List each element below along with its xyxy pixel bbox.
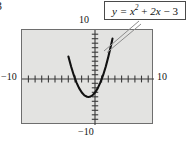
equation-mid: 2x bbox=[150, 5, 160, 17]
equation-plus: + bbox=[139, 5, 151, 17]
equation-callout-box: y = x2 + 2x − 3 bbox=[104, 1, 186, 20]
y-axis-max-label: 10 bbox=[79, 14, 89, 25]
equation-minus: − bbox=[161, 5, 173, 17]
figure-number: 3 bbox=[0, 0, 2, 13]
equation-constant: 3 bbox=[172, 5, 178, 17]
parabola-curve bbox=[68, 39, 112, 97]
equation-label: y = x2 + 2x − 3 bbox=[112, 5, 178, 17]
equation-prefix: y = x bbox=[112, 5, 135, 17]
y-axis-min-label: −10 bbox=[78, 126, 94, 137]
graph-viewing-window bbox=[21, 29, 153, 124]
x-axis-max-label: 10 bbox=[157, 71, 167, 82]
figure-container: 3 bbox=[0, 0, 188, 141]
graph-plot-area bbox=[22, 30, 154, 125]
x-axis-min-label: −10 bbox=[1, 71, 17, 82]
